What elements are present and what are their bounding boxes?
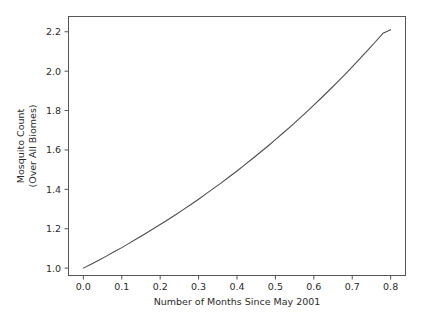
chart-figure: 0.00.10.20.30.40.50.60.70.8 1.01.21.41.6… [0, 0, 428, 319]
chart-canvas: 0.00.10.20.30.40.50.60.70.8 1.01.21.41.6… [0, 0, 428, 319]
y-tick-label: 1.0 [46, 263, 61, 274]
x-axis-tick-labels: 0.00.10.20.30.40.50.60.70.8 [76, 281, 398, 292]
x-axis-title: Number of Months Since May 2001 [154, 296, 321, 307]
y-tick-label: 1.2 [46, 223, 61, 234]
x-tick-label: 0.7 [345, 281, 360, 292]
x-tick-label: 0.0 [76, 281, 91, 292]
x-tick-label: 0.8 [383, 281, 398, 292]
y-tick-label: 1.6 [46, 144, 61, 155]
x-tick-label: 0.4 [229, 281, 244, 292]
x-tick-label: 0.6 [306, 281, 321, 292]
y-tick-label: 2.0 [46, 66, 61, 77]
x-tick-label: 0.3 [191, 281, 206, 292]
y-tick-label: 1.8 [46, 105, 61, 116]
figure-background [0, 0, 428, 319]
x-tick-label: 0.1 [114, 281, 129, 292]
x-tick-label: 0.2 [153, 281, 168, 292]
y-tick-label: 2.2 [46, 26, 61, 37]
x-tick-label: 0.5 [268, 281, 283, 292]
y-axis-title-line-2: (Over All Biomes) [27, 104, 38, 187]
y-tick-label: 1.4 [46, 184, 61, 195]
y-axis-title-line-1: Mosquito Count [15, 109, 26, 184]
